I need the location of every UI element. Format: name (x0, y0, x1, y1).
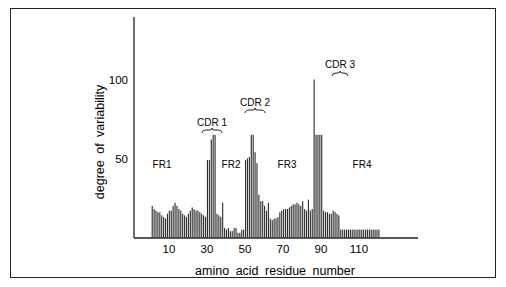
bar (296, 203, 297, 238)
bar (314, 80, 315, 238)
bar (275, 219, 276, 238)
bar (220, 217, 221, 238)
region-label-fr4: FR4 (353, 159, 372, 170)
bar (235, 228, 236, 237)
bar (243, 230, 244, 238)
bar (266, 211, 267, 238)
bar (272, 220, 273, 237)
bar (342, 230, 343, 238)
bar (274, 219, 275, 238)
bar (161, 215, 162, 237)
bar (199, 212, 200, 237)
bar (201, 214, 202, 238)
bar (268, 203, 269, 238)
bar (329, 214, 330, 238)
bar (175, 203, 176, 238)
bar (159, 212, 160, 237)
bar (230, 231, 231, 237)
region-label-fr1: FR1 (153, 159, 172, 170)
y-tick-50: 50 (115, 153, 128, 165)
bar (359, 230, 360, 238)
bar (350, 230, 351, 238)
bar (373, 230, 374, 238)
bar (195, 211, 196, 238)
bar (312, 209, 313, 237)
bar (205, 217, 206, 238)
bar (308, 200, 309, 238)
bar (327, 212, 328, 237)
bar (203, 215, 204, 237)
bar (176, 206, 177, 238)
bar (306, 211, 307, 238)
bar (213, 135, 214, 238)
bar (247, 159, 248, 238)
bar (310, 211, 311, 238)
bar (344, 230, 345, 238)
bar (260, 201, 261, 237)
bar (192, 207, 193, 237)
bar (228, 228, 229, 237)
bar (375, 230, 376, 238)
bar (224, 228, 225, 237)
bar (371, 230, 372, 238)
bar (222, 203, 223, 238)
variability-chart: 100 50 10 30 50 70 90 110 amino acid res… (0, 0, 506, 287)
bar (355, 230, 356, 238)
bar (251, 135, 252, 238)
bar (171, 211, 172, 238)
bar (211, 140, 212, 238)
bar (333, 211, 334, 238)
bar (354, 230, 355, 238)
bar (315, 135, 316, 238)
bar (188, 214, 189, 238)
cdr1-label: CDR 1 (197, 117, 227, 128)
region-label-fr3: FR3 (278, 159, 297, 170)
bar (321, 135, 322, 238)
y-tick-100: 100 (109, 74, 128, 86)
bar (226, 230, 227, 238)
bar (340, 230, 341, 238)
bar (154, 209, 155, 237)
bar (237, 233, 238, 238)
bar (298, 204, 299, 237)
bar (300, 206, 301, 238)
bar (180, 211, 181, 238)
bar (165, 219, 166, 238)
bar (255, 152, 256, 237)
bar (323, 211, 324, 238)
bar (293, 204, 294, 237)
bar (234, 228, 235, 237)
bar (378, 230, 379, 238)
bar (173, 206, 174, 238)
bar (264, 206, 265, 238)
bar (283, 209, 284, 237)
bar (346, 230, 347, 238)
bar (376, 230, 377, 238)
bar (287, 209, 288, 237)
bar (277, 217, 278, 238)
bar (186, 217, 187, 238)
bar (152, 206, 153, 238)
region-label-fr2: FR2 (222, 159, 241, 170)
y-axis-label: degree of variability (93, 84, 107, 199)
bar (253, 135, 254, 238)
bar (319, 135, 320, 238)
bar (331, 214, 332, 238)
bar (182, 214, 183, 238)
cdr2-label: CDR 2 (240, 97, 270, 108)
bar (336, 214, 337, 238)
bar (216, 214, 217, 238)
bar (363, 230, 364, 238)
cdr3-brace (332, 71, 348, 76)
x-tick-30: 30 (201, 243, 214, 255)
cdr1-brace (202, 128, 222, 133)
bar (207, 160, 208, 237)
x-tick-10: 10 (163, 243, 176, 255)
bar (285, 209, 286, 237)
bar (169, 211, 170, 238)
bar (289, 207, 290, 237)
bar (249, 157, 250, 238)
bar (184, 215, 185, 237)
bar (215, 135, 216, 238)
bar (262, 201, 263, 237)
